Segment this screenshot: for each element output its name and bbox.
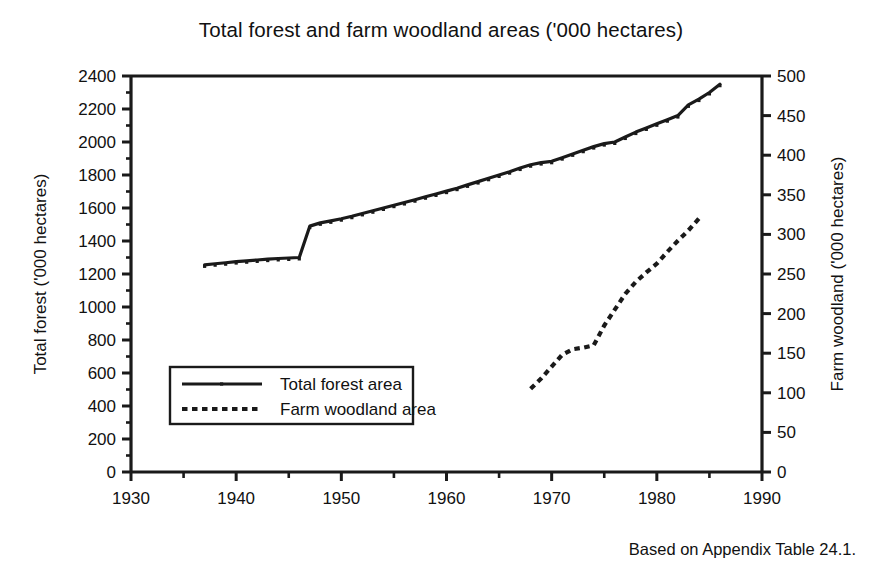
series-marker	[424, 197, 427, 200]
series-marker	[582, 150, 585, 153]
y2-axis-tick-label: 500	[777, 67, 805, 86]
series-marker	[718, 84, 721, 87]
series-marker	[519, 168, 522, 171]
y2-axis-tick-label: 450	[777, 107, 805, 126]
series-marker	[413, 200, 416, 203]
series-marker	[603, 143, 606, 146]
legend-swatch-marker	[220, 382, 223, 385]
series-marker	[466, 185, 469, 188]
y-axis-title: Total forest ('000 hectares)	[31, 174, 50, 375]
series-marker	[361, 213, 364, 216]
series-marker	[203, 265, 206, 268]
y2-axis-tick-label: 150	[777, 344, 805, 363]
y2-axis-tick-label: 250	[777, 265, 805, 284]
y2-axis-tick-label: 100	[777, 384, 805, 403]
y-axis-tick-label: 0	[107, 463, 116, 482]
series-marker	[308, 226, 311, 229]
series-marker	[371, 211, 374, 214]
y2-axis-tick-label: 400	[777, 146, 805, 165]
series-marker	[403, 202, 406, 205]
series-marker	[708, 92, 711, 95]
series-marker	[592, 146, 595, 149]
series-line-1	[205, 84, 720, 265]
x-axis-tick-label: 1950	[322, 489, 360, 508]
series-marker	[550, 161, 553, 164]
series-marker	[529, 165, 532, 168]
y-axis-tick-label: 1400	[78, 232, 116, 251]
series-marker	[634, 132, 637, 135]
y2-axis-tick-label: 350	[777, 186, 805, 205]
series-marker	[561, 157, 564, 160]
series-marker	[350, 216, 353, 219]
series-marker	[697, 99, 700, 102]
legend-label-1: Total forest area	[280, 375, 402, 394]
series-marker	[655, 124, 658, 127]
y-axis-tick-label: 2400	[78, 67, 116, 86]
series-marker	[455, 188, 458, 191]
y-axis-tick-label: 2000	[78, 133, 116, 152]
x-axis-tick-label: 1970	[533, 489, 571, 508]
series-marker	[245, 261, 248, 264]
series-marker	[277, 258, 280, 261]
y2-axis-title: Farm woodland ('000 hectares)	[828, 157, 847, 392]
series-marker	[329, 221, 332, 224]
series-marker	[298, 257, 301, 260]
chart-figure: Total forest and farm woodland areas ('0…	[0, 0, 882, 577]
y-axis-tick-label: 600	[88, 364, 116, 383]
series-marker	[571, 154, 574, 157]
series-marker	[624, 137, 627, 140]
series-marker	[214, 264, 217, 267]
legend-label-2: Farm woodland area	[280, 400, 436, 419]
y-axis-tick-label: 200	[88, 430, 116, 449]
y-axis-tick-label: 800	[88, 331, 116, 350]
y2-axis-tick-label: 50	[777, 423, 796, 442]
y-axis-tick-label: 400	[88, 397, 116, 416]
y2-axis-tick-label: 300	[777, 225, 805, 244]
series-marker	[508, 172, 511, 175]
series-marker	[392, 205, 395, 208]
series-marker	[666, 120, 669, 123]
x-axis-tick-label: 1940	[217, 489, 255, 508]
y-axis-tick-label: 1200	[78, 265, 116, 284]
y2-axis-tick-label: 200	[777, 305, 805, 324]
series-marker	[287, 258, 290, 261]
series-marker	[235, 261, 238, 264]
series-marker	[540, 162, 543, 165]
x-axis-tick-label: 1980	[638, 489, 676, 508]
series-marker	[434, 194, 437, 197]
x-axis-tick-label: 1960	[428, 489, 466, 508]
x-axis-tick-label: 1930	[112, 489, 150, 508]
series-marker	[256, 260, 259, 263]
series-marker	[487, 178, 490, 181]
series-marker	[676, 115, 679, 118]
y-axis-tick-label: 2200	[78, 100, 116, 119]
series-marker	[266, 259, 269, 262]
series-marker	[497, 175, 500, 178]
chart-plot-area: 0200400600800100012001400160018002000220…	[0, 0, 882, 577]
series-marker	[687, 105, 690, 108]
series-marker	[645, 128, 648, 131]
x-axis-tick-label: 1990	[743, 489, 781, 508]
series-marker	[340, 219, 343, 222]
y2-axis-tick-label: 0	[777, 463, 786, 482]
y-axis-tick-label: 1800	[78, 166, 116, 185]
y-axis-tick-label: 1600	[78, 199, 116, 218]
y-axis-tick-label: 1000	[78, 298, 116, 317]
series-marker	[445, 191, 448, 194]
series-marker	[613, 142, 616, 145]
series-marker	[382, 208, 385, 211]
series-marker	[224, 263, 227, 266]
source-note: Based on Appendix Table 24.1.	[629, 540, 856, 559]
series-line-2	[531, 219, 699, 389]
series-marker	[476, 181, 479, 184]
series-marker	[319, 223, 322, 226]
